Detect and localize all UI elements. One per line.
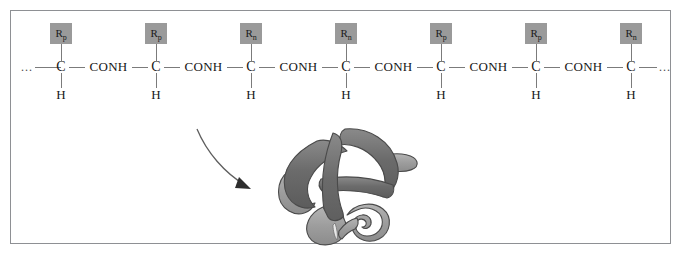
bond-c-to-h [346,73,347,88]
bond-dash [164,67,180,68]
r-group-subscript: p [158,33,162,42]
bond-c-to-h [631,73,632,88]
r-group-subscript: n [253,33,257,42]
hydrogen-atom: H [148,87,164,103]
r-group-subscript: n [348,33,352,42]
bond-dash [607,67,623,68]
hydrogen-atom: H [623,87,639,103]
r-group-subscript: n [633,33,637,42]
peptide-linker: CONH [259,59,338,75]
bond-dash [417,67,433,68]
linker-label: CONH [180,59,226,75]
r-group-subscript: p [63,33,67,42]
r-group-box: Rp [145,23,167,44]
r-group-box: Rp [525,23,547,44]
linker-label: CONH [465,59,511,75]
bond-c-to-h [441,73,442,88]
linker-label: CONH [275,59,321,75]
bond-dash [132,67,148,68]
bond-dash [639,67,657,68]
figure-frame: ... Rp C H CONH Rp C H CONH [10,10,671,244]
left-ellipsis: ... [19,62,35,72]
peptide-linker: CONH [449,59,528,75]
right-ellipsis: ... [657,62,673,72]
r-group-box: Rn [240,23,262,44]
bond-dash [449,67,465,68]
bond-dash [227,67,243,68]
hydrogen-atom: H [243,87,259,103]
folded-protein-ribbon [259,119,444,249]
linker-label: CONH [560,59,606,75]
r-group-box: Rn [335,23,357,44]
bond-dash [259,67,275,68]
hydrogen-atom: H [528,87,544,103]
bond-c-to-h [251,73,252,88]
bond-dash [512,67,528,68]
bond-c-to-h [536,73,537,88]
r-group-subscript: p [443,33,447,42]
peptide-linker: CONH [69,59,148,75]
linker-label: CONH [370,59,416,75]
bond-dash [544,67,560,68]
bond-c-to-h [61,73,62,88]
bond-dash [69,67,85,68]
polypeptide-chain: ... Rp C H CONH Rp C H CONH [11,11,672,111]
bond-dash [354,67,370,68]
hydrogen-atom: H [338,87,354,103]
r-group-box: Rp [50,23,72,44]
chain-right-terminus: ... [639,59,673,75]
bond-c-to-h [156,73,157,88]
r-group-box: Rp [430,23,452,44]
hydrogen-atom: H [53,87,69,103]
peptide-linker: CONH [164,59,243,75]
peptide-linker: CONH [544,59,623,75]
r-group-box: Rn [620,23,642,44]
r-group-subscript: p [538,33,542,42]
linker-label: CONH [85,59,131,75]
bond-dash [322,67,338,68]
peptide-linker: CONH [354,59,433,75]
hydrogen-atom: H [433,87,449,103]
folding-arrow-icon [181,123,271,203]
